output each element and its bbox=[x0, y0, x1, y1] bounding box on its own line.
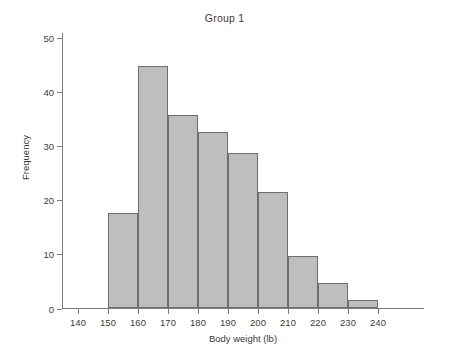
y-tick-label: 10 bbox=[14, 249, 54, 260]
y-tick-0 bbox=[57, 309, 62, 310]
histogram-bar bbox=[228, 153, 258, 309]
y-tick-label: 50 bbox=[14, 33, 54, 44]
plot-area: 01020304050 1401501601701801902002102202… bbox=[0, 0, 449, 363]
x-tick-190 bbox=[228, 309, 229, 314]
x-tick-220 bbox=[318, 309, 319, 314]
y-tick-label: 0 bbox=[14, 303, 54, 314]
y-tick-40 bbox=[57, 92, 62, 93]
x-tick-150 bbox=[108, 309, 109, 314]
x-axis-title: Body weight (lb) bbox=[62, 333, 424, 344]
histogram-bar bbox=[138, 66, 168, 308]
y-tick-30 bbox=[57, 146, 62, 147]
y-tick-10 bbox=[57, 254, 62, 255]
histogram-bar bbox=[288, 256, 318, 308]
x-tick-140 bbox=[78, 309, 79, 314]
x-tick-230 bbox=[348, 309, 349, 314]
y-axis-title: Frequency bbox=[20, 113, 31, 203]
histogram-bar bbox=[318, 283, 348, 309]
x-tick-180 bbox=[198, 309, 199, 314]
x-tick-240 bbox=[378, 309, 379, 314]
x-tick-160 bbox=[138, 309, 139, 314]
y-tick-label: 40 bbox=[14, 87, 54, 98]
histogram-bar bbox=[108, 213, 138, 308]
y-tick-50 bbox=[57, 38, 62, 39]
histogram-bar bbox=[198, 132, 228, 308]
histogram-bar bbox=[168, 115, 198, 309]
x-tick-210 bbox=[288, 309, 289, 314]
chart-page: Group 1 01020304050 14015016017018019020… bbox=[0, 0, 449, 363]
x-tick-200 bbox=[258, 309, 259, 314]
x-tick-170 bbox=[168, 309, 169, 314]
y-axis-line bbox=[62, 33, 63, 309]
x-tick-label: 240 bbox=[358, 317, 398, 328]
histogram-bar bbox=[348, 300, 378, 308]
histogram-bar bbox=[258, 192, 288, 308]
y-tick-20 bbox=[57, 200, 62, 201]
